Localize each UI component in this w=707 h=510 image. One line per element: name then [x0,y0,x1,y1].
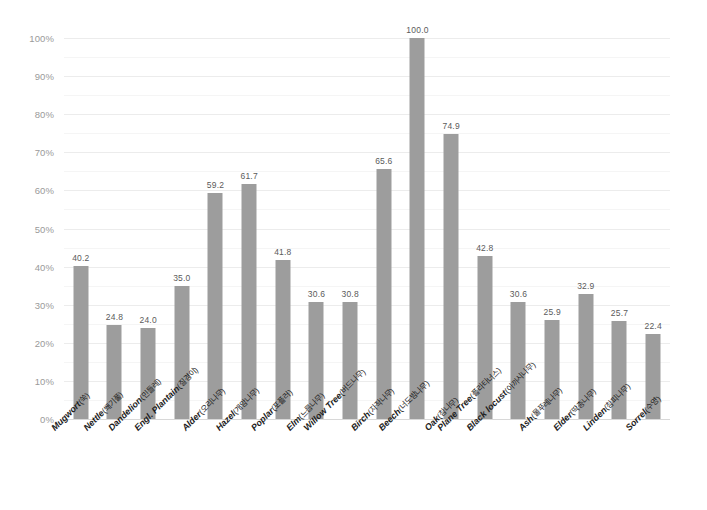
bar-slot: 41.8 [266,38,300,419]
bar-slot: 59.2 [199,38,233,419]
y-tick-label: 90% [35,71,54,82]
y-tick-label: 70% [35,147,54,158]
bar-value-label: 22.4 [644,321,661,331]
bar-value-label: 25.9 [543,307,560,317]
bar[interactable] [174,286,189,419]
bar[interactable] [410,38,425,419]
bar-value-label: 24.8 [106,312,123,322]
y-tick-label: 10% [35,375,54,386]
y-tick-label: 40% [35,261,54,272]
y-axis: 0%10%20%30%40%50%60%70%80%90%100% [0,0,64,510]
bar-value-label: 65.6 [375,156,392,166]
bar[interactable] [444,134,459,419]
bar[interactable] [376,169,391,419]
bar-slot: 42.8 [468,38,502,419]
bar-value-label: 42.8 [476,243,493,253]
bar[interactable] [242,184,257,419]
bar-value-label: 24.0 [139,315,156,325]
bar-value-label: 25.7 [611,308,628,318]
bar-value-label: 30.8 [341,289,358,299]
bar-slot: 30.6 [300,38,334,419]
y-tick-label: 100% [29,33,54,44]
bar-slot: 35.0 [165,38,199,419]
bar-value-label: 41.8 [274,247,291,257]
bar-slot: 74.9 [434,38,468,419]
bar-value-label: 30.6 [308,289,325,299]
bar-value-label: 59.2 [207,180,224,190]
bar-slot: 65.6 [367,38,401,419]
y-tick-label: 80% [35,109,54,120]
y-tick-label: 50% [35,223,54,234]
bar[interactable] [208,193,223,419]
bar-value-label: 40.2 [72,253,89,263]
bar-value-label: 32.9 [577,281,594,291]
bar-value-label: 61.7 [240,171,257,181]
bar-value-label: 30.6 [510,289,527,299]
bars-layer: 40.224.824.035.059.261.741.830.630.865.6… [64,38,670,419]
bar-slot: 30.8 [333,38,367,419]
y-tick-label: 30% [35,299,54,310]
bar-value-label: 74.9 [442,121,459,131]
bar-slot: 24.8 [98,38,132,419]
x-axis: Mugwort(쑥)Nettle(쐐기풀)Dandelion(민들레)Engl.… [64,419,670,510]
y-tick-label: 20% [35,337,54,348]
y-tick-label: 60% [35,185,54,196]
bar[interactable] [343,302,358,419]
bar-slot: 25.7 [603,38,637,419]
bar-slot: 61.7 [232,38,266,419]
bar-slot: 22.4 [636,38,670,419]
bar-chart: 0%10%20%30%40%50%60%70%80%90%100% 40.224… [0,0,707,510]
bar-value-label: 35.0 [173,273,190,283]
bar-slot: 32.9 [569,38,603,419]
bar-slot: 24.0 [131,38,165,419]
bar[interactable] [511,302,526,419]
bar-slot: 100.0 [401,38,435,419]
bar-slot: 40.2 [64,38,98,419]
bar-slot: 25.9 [535,38,569,419]
bar-value-label: 100.0 [406,25,428,35]
